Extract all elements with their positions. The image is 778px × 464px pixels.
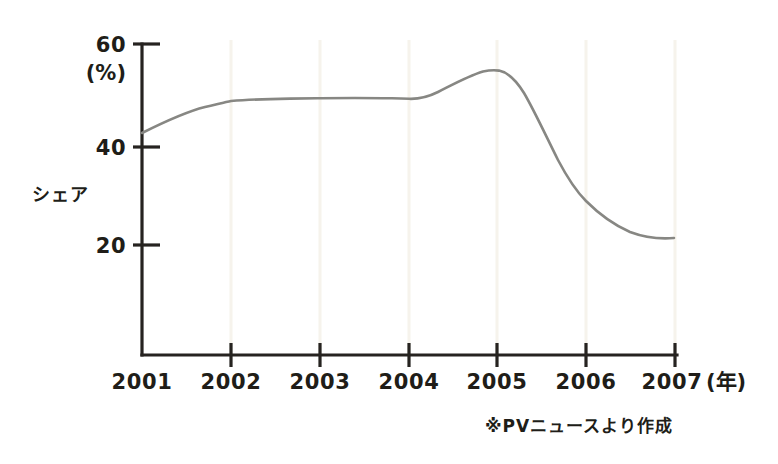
x-axis-tick-label-2001: 2001 (112, 370, 173, 394)
x-axis-tick-label-2002: 2002 (201, 370, 262, 394)
chart-figure: 60 (%) 40 20 シェア 2001 2002 2003 2004 200… (0, 0, 778, 464)
x-axis-tick-label-2006: 2006 (556, 370, 617, 394)
x-axis-tick-label-2004: 2004 (379, 370, 440, 394)
source-note: ※PVニュースより作成 (485, 416, 673, 436)
x-axis-tick-label-2003: 2003 (290, 370, 351, 394)
x-axis-tick-label-2007: 2007 (642, 370, 703, 394)
y-axis-unit-label: (%) (86, 61, 126, 85)
y-axis-tick-label-20: 20 (96, 234, 126, 258)
share-line-chart: 60 (%) 40 20 シェア 2001 2002 2003 2004 200… (0, 0, 778, 464)
y-axis-tick-label-60: 60 (96, 33, 126, 57)
y-axis-title: シェア (32, 184, 89, 205)
x-axis-unit-label: (年) (706, 370, 746, 394)
y-axis-tick-label-40: 40 (96, 136, 126, 160)
x-axis-tick-label-2005: 2005 (467, 370, 528, 394)
